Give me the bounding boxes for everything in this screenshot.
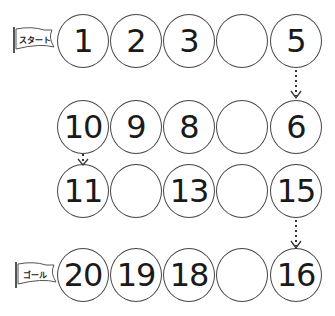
number-circle[interactable]: 20 — [57, 248, 109, 302]
blank-circle[interactable] — [110, 164, 162, 218]
number-circle[interactable]: 11 — [57, 164, 109, 218]
number-circle[interactable]: 1 — [57, 14, 109, 68]
number-circle[interactable]: 13 — [163, 164, 215, 218]
start-flag-icon: スタート — [12, 27, 56, 53]
number-circle[interactable]: 3 — [163, 14, 215, 68]
start-flag-label: スタート — [19, 35, 51, 45]
arrow-down-icon — [77, 154, 89, 166]
number-circle[interactable]: 19 — [110, 248, 162, 302]
blank-circle[interactable] — [216, 100, 268, 154]
number-circle[interactable]: 15 — [270, 164, 322, 218]
blank-circle[interactable] — [216, 164, 268, 218]
goal-flag-icon: ゴール — [14, 262, 58, 288]
number-circle[interactable]: 9 — [110, 100, 162, 154]
arrow-down-icon — [290, 218, 302, 250]
blank-circle[interactable] — [216, 14, 268, 68]
number-circle[interactable]: 5 — [270, 14, 322, 68]
goal-flag-label: ゴール — [23, 270, 47, 280]
blank-circle[interactable] — [216, 248, 268, 302]
number-circle[interactable]: 6 — [270, 100, 322, 154]
arrow-down-icon — [290, 68, 302, 100]
number-circle[interactable]: 18 — [163, 248, 215, 302]
number-circle[interactable]: 2 — [110, 14, 162, 68]
number-circle[interactable]: 16 — [270, 248, 322, 302]
number-circle[interactable]: 8 — [163, 100, 215, 154]
number-circle[interactable]: 10 — [57, 100, 109, 154]
